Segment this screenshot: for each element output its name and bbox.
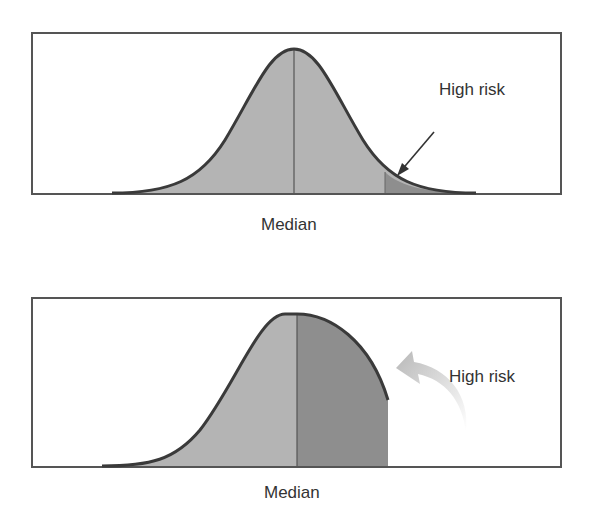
high-risk-label-top: High risk bbox=[439, 80, 505, 100]
diagram-canvas bbox=[0, 0, 591, 516]
median-label-bottom: Median bbox=[264, 483, 320, 503]
median-label-top: Median bbox=[261, 215, 317, 235]
panel-normal-distribution bbox=[32, 33, 561, 194]
high-risk-label-bottom: High risk bbox=[449, 367, 515, 387]
